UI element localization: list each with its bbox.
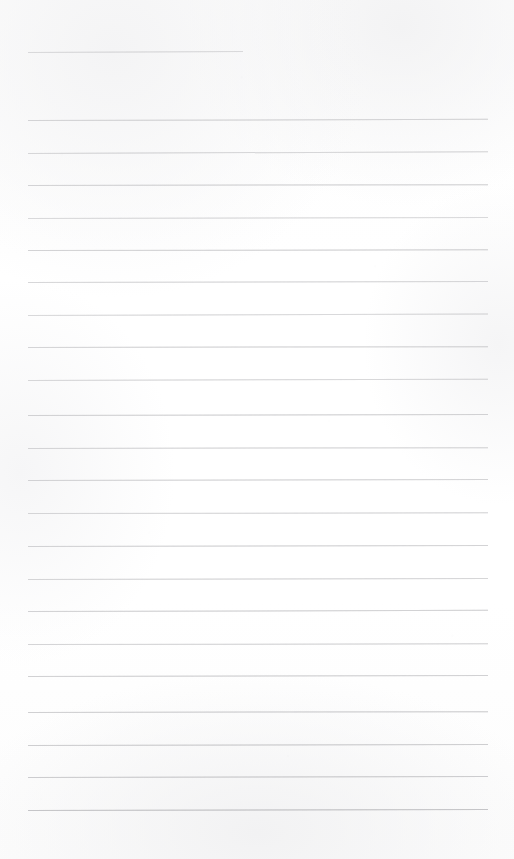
ruled-line — [28, 249, 488, 251]
ruled-line — [28, 545, 488, 547]
ruled-line — [28, 151, 488, 154]
ruled-line — [28, 447, 488, 449]
ruled-line — [28, 217, 488, 219]
ruled-line — [28, 378, 488, 380]
ruled-line — [28, 809, 488, 811]
ruled-line — [28, 512, 488, 514]
scanned-page — [0, 0, 514, 859]
ruled-line — [28, 743, 488, 745]
ruled-line — [28, 119, 488, 121]
ruled-line — [28, 313, 488, 315]
ruled-line — [28, 711, 488, 713]
ruled-line — [28, 414, 488, 416]
ruled-line — [28, 610, 488, 612]
ruled-line — [28, 675, 488, 677]
ruled-line — [28, 578, 488, 580]
ruled-line — [28, 51, 243, 53]
ruled-line — [28, 281, 488, 283]
ruled-line — [28, 479, 488, 481]
ruled-line — [28, 776, 488, 778]
ruled-line — [28, 184, 488, 186]
ruled-line — [28, 346, 488, 348]
ruled-line — [28, 643, 488, 645]
ruled-lines-layer — [0, 0, 514, 859]
